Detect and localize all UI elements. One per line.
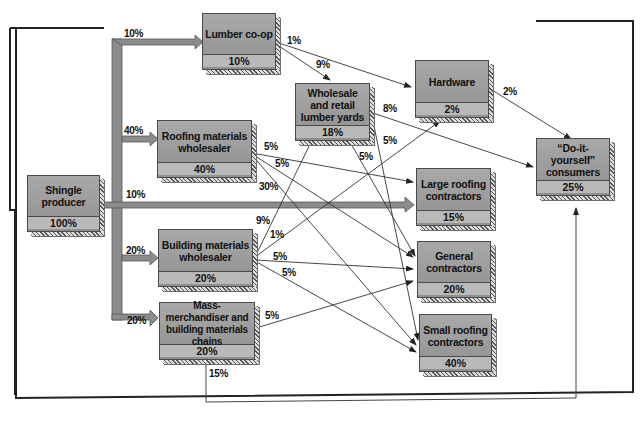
flow-label: 10% xyxy=(126,189,145,200)
flow-label: 5% xyxy=(275,158,289,169)
flow-label: 20% xyxy=(126,245,145,256)
flow-label: 10% xyxy=(124,28,143,39)
distribution-diagram: Lumber co-op 10% Roofing materials whole… xyxy=(0,0,640,428)
node-name: Large roofing contractors xyxy=(417,169,490,210)
flow-label: 5% xyxy=(359,151,373,162)
flow-label: 5% xyxy=(264,141,278,152)
flow-label: 5% xyxy=(383,135,397,146)
trunk-vertical xyxy=(112,39,122,320)
node-name: Mass-merchandiser and building materials… xyxy=(160,303,254,344)
mass-return-path xyxy=(206,208,576,402)
node-name: Wholesale and retail lumber yards xyxy=(296,84,369,125)
flow-label: 40% xyxy=(124,125,143,136)
node-percentage: 10% xyxy=(203,54,275,67)
node-name: Small roofing contractors xyxy=(420,315,491,356)
flow-label: 15% xyxy=(209,368,228,379)
flow-label: 5% xyxy=(265,310,279,321)
node-large-roofing: Large roofing contractors 15% xyxy=(416,168,491,226)
node-percentage: 40% xyxy=(158,162,251,175)
node-lumber-yards: Wholesale and retail lumber yards 18% xyxy=(295,83,370,141)
node-lumber-coop: Lumber co-op 10% xyxy=(202,13,276,70)
flow-label: 9% xyxy=(316,59,330,70)
node-percentage: 25% xyxy=(537,180,609,193)
node-general-contractors: General contractors 20% xyxy=(417,241,491,298)
node-name: “Do-it-yourself” consumers xyxy=(537,139,609,180)
node-percentage: 18% xyxy=(296,125,369,138)
flow-hardware-diy xyxy=(492,90,571,139)
node-name: General contractors xyxy=(418,242,490,282)
flow-label: 30% xyxy=(259,181,278,192)
flow-label: 20% xyxy=(127,315,146,326)
node-shingle-producer: Shingle producer 100% xyxy=(27,175,100,232)
node-name: Roofing materials wholesaler xyxy=(158,121,251,162)
node-percentage: 15% xyxy=(417,210,490,223)
flow-building-yards xyxy=(255,136,314,257)
flow-label: 1% xyxy=(270,229,284,240)
node-hardware: Hardware 2% xyxy=(415,60,489,118)
flow-label: 9% xyxy=(256,215,270,226)
flow-label: 5% xyxy=(282,267,296,278)
frame-outer xyxy=(16,21,633,398)
flow-label: 8% xyxy=(383,103,397,114)
node-name: Hardware xyxy=(416,61,488,102)
node-name: Shingle producer xyxy=(28,176,99,216)
flow-yards-small xyxy=(374,126,418,340)
flow-coop-hardware xyxy=(276,42,411,87)
node-building-wholesaler: Building materials wholesaler 20% xyxy=(158,229,253,287)
node-percentage: 40% xyxy=(420,356,491,369)
node-roofing-wholesaler: Roofing materials wholesaler 40% xyxy=(157,120,252,178)
node-percentage: 20% xyxy=(418,282,490,295)
trunk-to-large xyxy=(100,197,414,212)
node-percentage: 20% xyxy=(159,271,252,284)
trunk-arrows xyxy=(100,35,414,326)
flow-mass-general xyxy=(256,281,413,328)
node-name: Lumber co-op xyxy=(203,14,275,54)
node-percentage: 2% xyxy=(416,102,488,115)
flow-building-small xyxy=(255,261,416,352)
flow-label: 2% xyxy=(503,86,517,97)
flow-label: 1% xyxy=(287,35,301,46)
flow-label: 5% xyxy=(273,251,287,262)
node-name: Building materials wholesaler xyxy=(159,230,252,271)
node-percentage: 100% xyxy=(28,216,99,229)
node-mass-merchandiser: Mass-merchandiser and building materials… xyxy=(159,302,255,360)
node-diy-consumers: “Do-it-yourself” consumers 25% xyxy=(536,138,610,196)
node-small-roofing: Small roofing contractors 40% xyxy=(419,314,492,372)
